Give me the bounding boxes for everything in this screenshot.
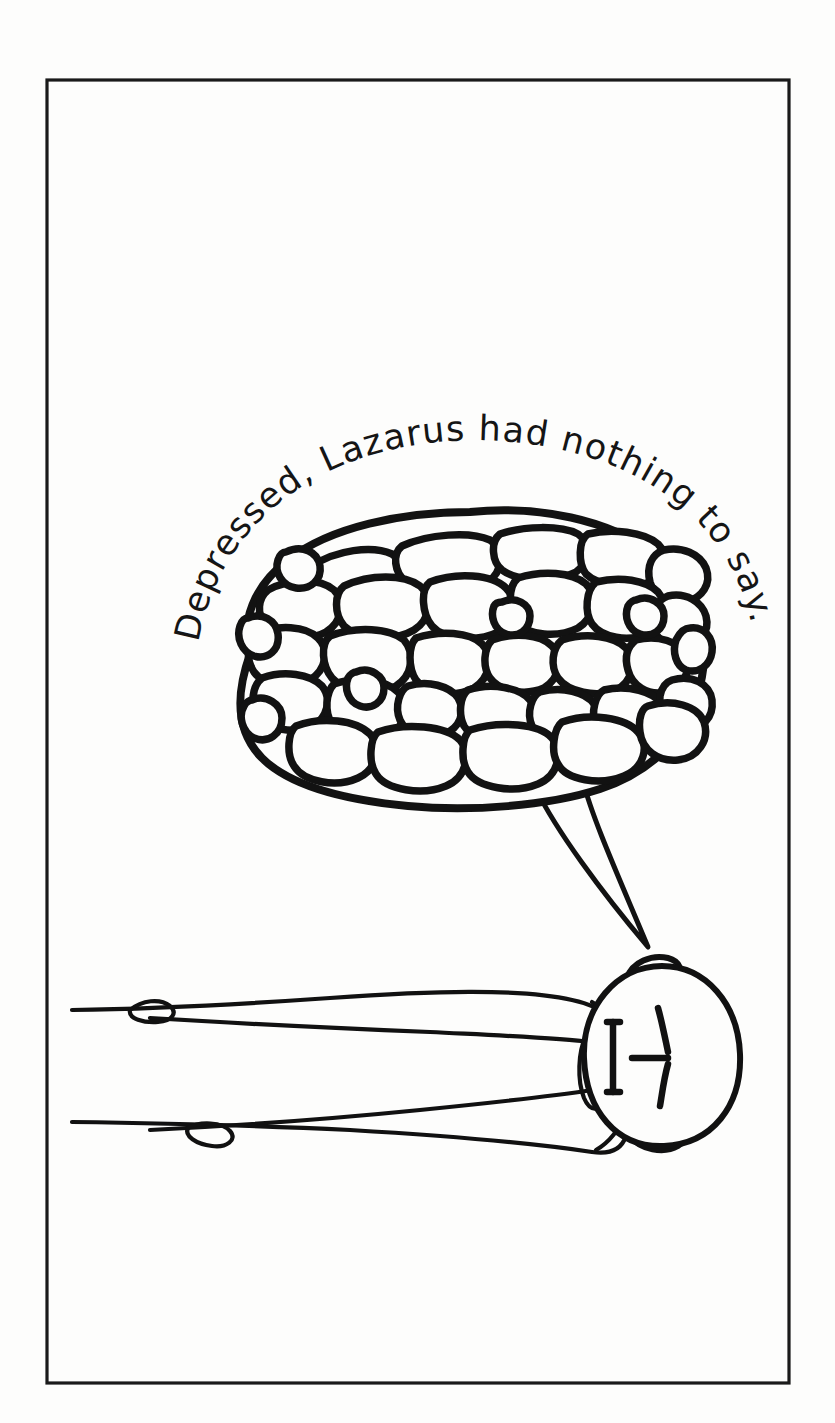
bubble-cell (371, 726, 466, 790)
bubble-cell (289, 720, 376, 782)
cartoon-panel: Depressed, Lazarus had nothing to say. D… (0, 0, 835, 1423)
bubble-cell (277, 549, 320, 588)
bubble-cell (493, 600, 531, 635)
bubble-cell (463, 724, 558, 788)
bubble-cell (239, 616, 278, 657)
bubble-cell (241, 698, 282, 740)
bubble-cell (627, 598, 665, 635)
bubble-cell (554, 717, 645, 781)
bubble-cell (639, 703, 705, 760)
bubble-cell (347, 670, 385, 707)
panel-drawing: Depressed, Lazarus had nothing to say. (0, 0, 835, 1423)
bubble-cell (674, 628, 712, 671)
speech-bubble-cells (239, 528, 712, 791)
